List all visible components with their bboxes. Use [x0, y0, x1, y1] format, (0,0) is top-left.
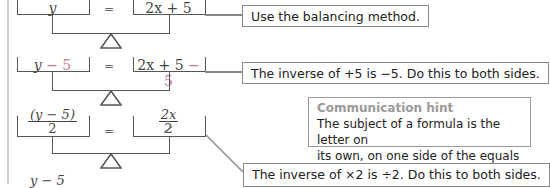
step2-equals: =: [104, 59, 114, 73]
step3-right-fraction: 2x2: [133, 108, 204, 136]
note-box-3: The inverse of ×2 is ÷2. Do this to both…: [243, 163, 550, 187]
fulcrum-triangle-icon: [100, 90, 122, 106]
step2-left-expression: y − 5: [17, 57, 88, 73]
balance-beam-1: [52, 15, 170, 34]
step1-left-expression: y: [17, 0, 88, 16]
connector-line-1: [205, 14, 242, 16]
hint-body-line1: The subject of a formula is the letter o…: [317, 116, 522, 148]
balance-beam-3: [52, 137, 170, 154]
step1-right-expression: 2x + 5: [133, 0, 204, 16]
margin-line: [7, 0, 9, 184]
hint-title: Communication hint: [317, 100, 522, 116]
connector-line-2: [205, 71, 242, 73]
connector-line-3: [205, 134, 245, 174]
step4-left-numerator: y − 5: [30, 173, 65, 188]
communication-hint-box: Communication hint The subject of a form…: [308, 97, 531, 147]
step3-equals: =: [104, 124, 114, 138]
note-box-1: Use the balancing method.: [242, 5, 429, 27]
balance-beam-2: [52, 72, 170, 91]
fulcrum-triangle-icon: [100, 153, 122, 169]
fulcrum-triangle-icon: [100, 33, 122, 49]
step1-equals: =: [104, 2, 114, 16]
note-box-2: The inverse of +5 is −5. Do this to both…: [242, 62, 549, 84]
step3-left-fraction: (y − 5)2: [17, 108, 88, 136]
